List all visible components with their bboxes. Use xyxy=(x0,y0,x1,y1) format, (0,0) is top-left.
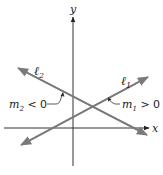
line-l1-label: ℓ1 xyxy=(121,74,131,90)
slope-l2-leader xyxy=(47,93,63,104)
diagram-canvas: y x ℓ2 ℓ1 m2 < 0 m1 > 0 xyxy=(0,0,163,175)
y-axis-label: y xyxy=(69,3,77,16)
slope-l1-annotation: m1 > 0 xyxy=(122,98,160,113)
line-l2-label: ℓ2 xyxy=(34,64,44,80)
slope-l2-annotation: m2 < 0 xyxy=(9,98,47,113)
x-axis-label: x xyxy=(152,122,159,135)
slope-diagram: y x ℓ2 ℓ1 m2 < 0 m1 > 0 xyxy=(0,0,163,175)
